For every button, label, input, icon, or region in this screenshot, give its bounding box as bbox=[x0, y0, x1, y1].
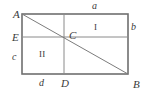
side-label-a: a bbox=[92, 1, 97, 11]
side-label-c: c bbox=[12, 52, 16, 62]
region-label-I: I bbox=[94, 23, 97, 32]
region-label-II: II bbox=[39, 50, 46, 59]
vertex-label-C: C bbox=[69, 30, 76, 41]
figure-canvas bbox=[0, 0, 147, 92]
vertex-label-A: A bbox=[13, 9, 20, 20]
side-label-b: b bbox=[131, 22, 136, 32]
vertex-label-B: B bbox=[133, 79, 140, 90]
vertex-label-E: E bbox=[12, 32, 19, 43]
vertex-label-D: D bbox=[61, 78, 69, 89]
geometry-figure: A B C D E a b c d I II bbox=[0, 0, 147, 92]
side-label-d: d bbox=[39, 78, 44, 88]
